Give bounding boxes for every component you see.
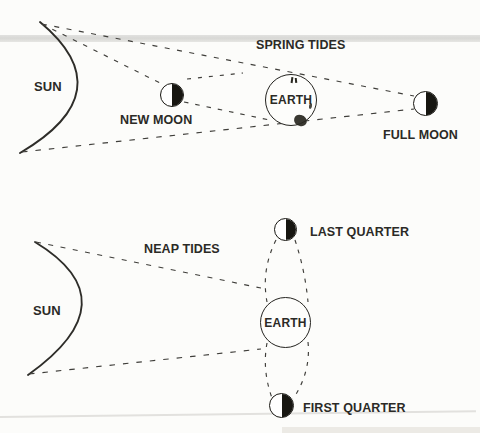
sun-label-bottom: SUN <box>33 303 61 318</box>
earth-icon-bottom: EARTH <box>260 297 311 348</box>
spring-tides-title: SPRING TIDES <box>256 38 345 52</box>
last-quarter-label: LAST QUARTER <box>310 225 409 239</box>
new-moon-icon <box>160 83 184 107</box>
spring-alignment-lines <box>22 24 414 152</box>
full-moon-label: FULL MOON <box>383 128 458 142</box>
earth-label-bottom: EARTH <box>264 316 306 330</box>
first-quarter-moon-icon <box>269 393 294 418</box>
full-moon-icon <box>413 91 438 116</box>
diagram-lines <box>0 0 480 433</box>
earth-label-top: EARTH <box>270 93 312 107</box>
sun-label-top: SUN <box>34 79 62 94</box>
new-moon-label: NEW MOON <box>120 113 192 127</box>
neap-tides-title: NEAP TIDES <box>144 242 220 256</box>
first-quarter-label: FIRST QUARTER <box>303 401 406 415</box>
last-quarter-moon-icon <box>274 218 297 241</box>
tides-diagram: SPRING TIDES SUN NEW MOON EARTH FULL MOO… <box>0 0 480 433</box>
